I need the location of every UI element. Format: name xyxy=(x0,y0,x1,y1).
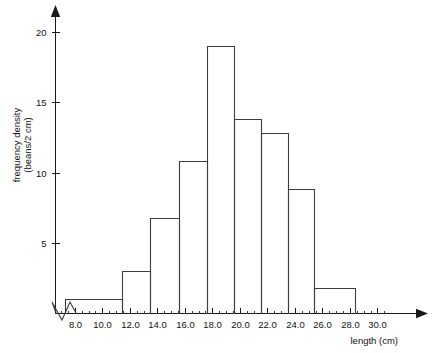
x-axis-group xyxy=(56,309,429,318)
histogram-bar xyxy=(66,300,123,314)
x-axis-arrow-icon xyxy=(416,309,428,318)
y-axis-group xyxy=(51,5,60,314)
x-tick-label: 24.0 xyxy=(286,319,305,330)
histogram-bar xyxy=(289,190,315,314)
x-tick-label: 28.0 xyxy=(341,319,360,330)
y-axis-title: frequency density (beans/2 cm) xyxy=(11,108,33,183)
x-tick-label: 22.0 xyxy=(258,319,277,330)
x-tick-label: 14.0 xyxy=(148,319,167,330)
y-tick-label: 5 xyxy=(41,238,46,249)
y-axis-title-line2: (beans/2 cm) xyxy=(22,117,33,172)
x-tick-label: 20.0 xyxy=(231,319,250,330)
x-tick-label: 26.0 xyxy=(313,319,332,330)
y-axis-title-line1: frequency density xyxy=(11,108,22,183)
x-axis-tick-labels: 8.010.012.014.016.018.020.022.024.026.02… xyxy=(69,319,387,330)
histogram-bar xyxy=(180,162,208,314)
x-axis-title: length (cm) xyxy=(350,335,398,346)
histogram-bars xyxy=(66,47,356,314)
chart-canvas: 5101520 8.010.012.014.016.018.020.022.02… xyxy=(0,0,433,353)
histogram-bar xyxy=(208,47,235,314)
x-tick-label: 8.0 xyxy=(69,319,82,330)
x-tick-label: 10.0 xyxy=(93,319,112,330)
x-tick-label: 18.0 xyxy=(203,319,222,330)
histogram-bar xyxy=(123,272,151,314)
x-tick-label: 30.0 xyxy=(368,319,387,330)
y-axis-tick-labels: 5101520 xyxy=(36,27,47,249)
y-axis-arrow-icon xyxy=(51,5,60,17)
histogram-bar xyxy=(151,219,180,314)
histogram-bar xyxy=(235,120,262,314)
y-tick-label: 15 xyxy=(36,97,47,108)
histogram-bar xyxy=(262,134,289,314)
histogram-chart: 5101520 8.010.012.014.016.018.020.022.02… xyxy=(0,0,433,353)
x-tick-label: 12.0 xyxy=(121,319,140,330)
histogram-bar xyxy=(315,289,356,314)
y-tick-label: 10 xyxy=(36,168,47,179)
y-tick-label: 20 xyxy=(36,27,47,38)
x-tick-label: 16.0 xyxy=(176,319,195,330)
